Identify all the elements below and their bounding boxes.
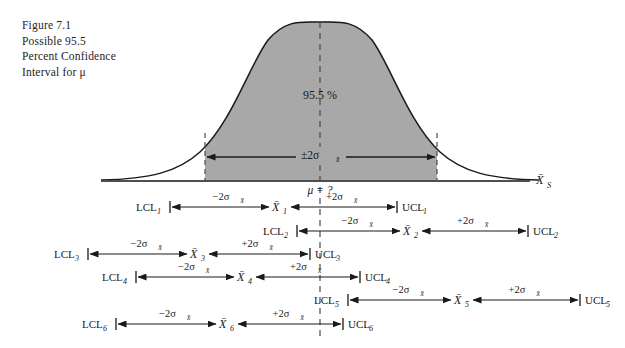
axis-label-text: X̄ (535, 173, 545, 187)
plus-sigma-subscript: x̄ (269, 243, 274, 252)
plus-sigma-subscript: x̄ (484, 220, 489, 229)
lcl-subscript: 1 (157, 207, 161, 216)
lcl-subscript: 6 (103, 324, 107, 333)
confidence-interval-diagram: X̄ S 95.5 % ±2σ x̄ μ = ? LCL1−2σx̄X̄1+2σ… (0, 0, 625, 348)
sample-mean-label: X̄ (453, 293, 462, 307)
plus-sigma-subscript: x̄ (536, 289, 541, 298)
minus-sigma-label: −2σ (159, 308, 176, 319)
sample-mean-label: X̄ (236, 270, 245, 284)
ucl-subscript: 6 (369, 324, 373, 333)
sample-mean-subscript: 5 (465, 300, 469, 309)
plus-sigma-label: +2σ (457, 215, 474, 226)
minus-sigma-label: −2σ (213, 191, 230, 202)
lcl-label: LCL (136, 201, 157, 213)
lcl-label: LCL (314, 294, 335, 306)
ucl-subscript: 4 (386, 277, 390, 286)
interval-row: LCL2−2σx̄X̄2+2σx̄UCL2 (263, 215, 558, 240)
lcl-label: LCL (54, 248, 75, 260)
sample-mean-subscript: 4 (248, 277, 252, 286)
sample-mean-label: X̄ (402, 224, 411, 238)
plus-sigma-label: +2σ (509, 284, 526, 295)
plus-sigma-subscript: x̄ (317, 266, 322, 275)
ucl-subscript: 5 (606, 300, 610, 309)
lcl-label: LCL (102, 271, 123, 283)
sample-mean-label: X̄ (189, 247, 198, 261)
sigma-width-label: ±2σ x̄ (296, 147, 346, 164)
ucl-label: UCL (348, 318, 370, 330)
axis-label-xbar-s: X̄ S (535, 173, 552, 190)
interval-row: LCL5−2σx̄X̄5+2σx̄UCL5 (314, 284, 610, 309)
sample-mean-label: X̄ (271, 200, 280, 214)
axis-label-subscript: S (547, 180, 552, 190)
minus-sigma-label: −2σ (342, 215, 359, 226)
lcl-subscript: 5 (335, 300, 339, 309)
area-percent-label: 95.5 % (303, 88, 337, 102)
lcl-subscript: 2 (284, 231, 288, 240)
ucl-subscript: 3 (335, 254, 340, 263)
sigma-width-label-subscript: x̄ (335, 155, 340, 164)
plus-sigma-label: +2σ (242, 238, 259, 249)
interval-row: LCL1−2σx̄X̄1+2σx̄UCL1 (136, 191, 427, 216)
plus-sigma-subscript: x̄ (300, 313, 305, 322)
figure-page: Figure 7.1 Possible 95.5 Percent Confide… (0, 0, 625, 348)
plus-sigma-subscript: x̄ (353, 196, 358, 205)
plus-sigma-label: +2σ (273, 308, 290, 319)
minus-sigma-subscript: x̄ (420, 289, 425, 298)
minus-sigma-label: −2σ (131, 238, 148, 249)
minus-sigma-subscript: x̄ (369, 220, 374, 229)
ucl-label: UCL (315, 248, 337, 260)
sigma-width-label-text: ±2σ (301, 149, 320, 161)
lcl-label: LCL (82, 318, 103, 330)
ucl-label: UCL (585, 294, 607, 306)
confidence-interval-rows: LCL1−2σx̄X̄1+2σx̄UCL1LCL2−2σx̄X̄2+2σx̄UC… (54, 191, 610, 333)
interval-row: LCL4−2σx̄X̄4+2σx̄UCL4 (102, 261, 390, 286)
lcl-label: LCL (263, 225, 284, 237)
minus-sigma-subscript: x̄ (240, 196, 245, 205)
ucl-label: UCL (365, 271, 387, 283)
sample-mean-subscript: 3 (200, 254, 205, 263)
lcl-subscript: 4 (123, 277, 127, 286)
ucl-label: UCL (533, 225, 555, 237)
sample-mean-subscript: 1 (283, 207, 287, 216)
minus-sigma-label: −2σ (178, 261, 195, 272)
plus-sigma-label: +2σ (326, 191, 343, 202)
minus-sigma-label: −2σ (393, 284, 410, 295)
interval-row: LCL6−2σx̄X̄6+2σx̄UCL6 (82, 308, 373, 333)
ucl-subscript: 2 (554, 231, 558, 240)
minus-sigma-subscript: x̄ (186, 313, 191, 322)
lcl-subscript: 3 (74, 254, 79, 263)
plus-sigma-label: +2σ (290, 261, 307, 272)
sample-mean-subscript: 2 (414, 231, 418, 240)
ucl-subscript: 1 (423, 207, 427, 216)
ucl-label: UCL (402, 201, 424, 213)
sample-mean-subscript: 6 (230, 324, 234, 333)
interval-row: LCL3−2σx̄X̄3+2σx̄UCL3 (54, 238, 340, 263)
sample-mean-label: X̄ (218, 317, 227, 331)
minus-sigma-subscript: x̄ (205, 266, 210, 275)
minus-sigma-subscript: x̄ (158, 243, 163, 252)
